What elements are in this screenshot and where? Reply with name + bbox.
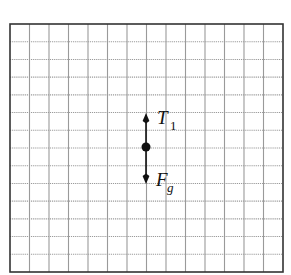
tension-label: T xyxy=(157,107,169,128)
arrowhead-down-icon xyxy=(143,174,150,185)
gravity-label-subscript: g xyxy=(167,180,174,195)
object-point xyxy=(142,143,151,152)
free-body-diagram: T1Fg xyxy=(0,0,291,275)
arrowhead-up-icon xyxy=(143,113,150,124)
tension-label-subscript: 1 xyxy=(170,118,177,133)
